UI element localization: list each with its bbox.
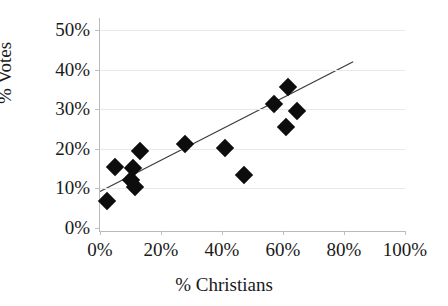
data-point [216,139,234,157]
x-tick-mark [222,231,223,235]
x-tick-mark [405,231,406,235]
data-point [235,165,253,183]
x-tick-mark [100,231,101,235]
gridline-horizontal [100,109,405,110]
data-point [288,102,306,120]
x-tick-mark [161,231,162,235]
data-point [98,192,116,210]
y-tick-label: 30% [38,99,90,118]
y-tick-mark [95,228,100,229]
gridline-horizontal [100,188,405,189]
x-axis-line [99,231,406,232]
x-tick-mark [344,231,345,235]
y-tick-label: 0% [38,218,90,237]
y-tick-label: 40% [38,60,90,79]
data-point [176,134,194,152]
x-tick-label: 80% [327,240,362,259]
y-tick-label: 20% [38,139,90,158]
x-tick-label: 60% [266,240,301,259]
gridline-horizontal [100,70,405,71]
data-point [265,95,283,113]
gridline-horizontal [100,30,405,31]
y-tick-mark [95,188,100,189]
data-point [131,142,149,160]
x-tick-label: 40% [205,240,240,259]
y-axis-title: % Votes [0,42,16,104]
scatter-chart: 0%10%20%30%40%50% 0%20%40%60%80%100% % V… [0,0,448,306]
x-tick-label: 20% [144,240,179,259]
x-axis-title: % Christians [0,274,448,296]
x-tick-label: 0% [87,240,112,259]
x-tick-label: 100% [383,240,427,259]
y-tick-mark [95,70,100,71]
data-point [278,78,296,96]
data-point [106,157,124,175]
y-tick-mark [95,149,100,150]
x-tick-mark [283,231,284,235]
y-tick-label: 50% [38,20,90,39]
data-point [277,118,295,136]
y-tick-mark [95,30,100,31]
y-tick-mark [95,109,100,110]
y-tick-label: 10% [38,178,90,197]
